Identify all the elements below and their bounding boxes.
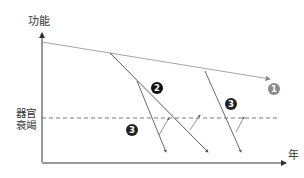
- y-axis-label: 功能: [28, 16, 50, 28]
- badge-3a: 3: [225, 98, 237, 110]
- badge-3b: 3: [126, 124, 138, 136]
- badge-1: 1: [268, 83, 280, 95]
- x-axis-label: 年: [288, 150, 299, 162]
- later-decline-line: [205, 71, 241, 152]
- acute-decline-line: [110, 53, 208, 152]
- recovery-arrow-2: [190, 115, 200, 130]
- threshold-label: 器官衰竭: [16, 107, 42, 131]
- badge-2: 2: [151, 82, 163, 94]
- baseline-decline-line: [42, 42, 270, 79]
- recovery-arrow-1: [159, 118, 169, 135]
- recovery-arrow-3: [236, 117, 244, 132]
